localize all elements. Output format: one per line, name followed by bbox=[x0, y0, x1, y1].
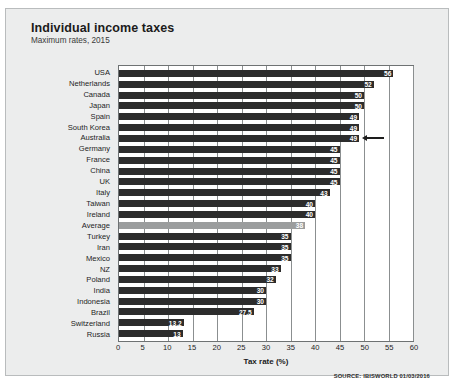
bar[interactable]: 40 bbox=[119, 200, 315, 207]
x-tick-15: 15 bbox=[188, 343, 196, 352]
bar[interactable]: 27.5 bbox=[119, 308, 254, 315]
x-tick-0: 0 bbox=[116, 343, 120, 352]
x-tick-50: 50 bbox=[360, 343, 368, 352]
bar-row[interactable]: 35 bbox=[119, 231, 413, 242]
chart-subtitle: Maximum rates, 2015 bbox=[31, 36, 411, 46]
bar[interactable]: 33 bbox=[119, 265, 281, 272]
bar[interactable]: 49 bbox=[119, 135, 359, 142]
category-label: France bbox=[26, 154, 114, 165]
bar[interactable]: 35 bbox=[119, 243, 291, 250]
category-label: China bbox=[26, 165, 114, 176]
x-tick-20: 20 bbox=[212, 343, 220, 352]
bar-value-label: 49 bbox=[350, 135, 357, 142]
bar-row[interactable]: 40 bbox=[119, 209, 413, 220]
bar[interactable]: 35 bbox=[119, 254, 291, 261]
bar[interactable]: 50 bbox=[119, 102, 364, 109]
x-tick-45: 45 bbox=[336, 343, 344, 352]
category-label: Japan bbox=[26, 100, 114, 111]
bar[interactable]: 45 bbox=[119, 178, 340, 185]
bar-value-label: 49 bbox=[350, 113, 357, 120]
bar-row[interactable]: 35 bbox=[119, 242, 413, 253]
bar-row[interactable]: 30 bbox=[119, 296, 413, 307]
bar-row[interactable]: 49 bbox=[119, 111, 413, 122]
bar-row[interactable]: 32 bbox=[119, 274, 413, 285]
category-label: Canada bbox=[26, 89, 114, 100]
bar-row[interactable]: 49 bbox=[119, 133, 413, 144]
bar-row[interactable]: 30 bbox=[119, 285, 413, 296]
x-tick-30: 30 bbox=[262, 343, 270, 352]
bar[interactable]: 40 bbox=[119, 211, 315, 218]
bar[interactable]: 56 bbox=[119, 70, 393, 77]
chart-header: Individual income taxes Maximum rates, 2… bbox=[31, 21, 411, 46]
category-label: USA bbox=[26, 67, 114, 78]
bar-row[interactable]: 49 bbox=[119, 122, 413, 133]
bar-value-label: 50 bbox=[355, 92, 362, 99]
plot-area: 5652505049494945454545434040383535353332… bbox=[118, 65, 414, 342]
bar-row[interactable]: 50 bbox=[119, 90, 413, 101]
bar-value-label: 30 bbox=[257, 287, 264, 294]
category-label: Iran bbox=[26, 242, 114, 253]
bar-row[interactable]: 56 bbox=[119, 68, 413, 79]
bar-row[interactable]: 45 bbox=[119, 176, 413, 187]
bar-row[interactable]: 45 bbox=[119, 155, 413, 166]
bar-value-label: 45 bbox=[330, 168, 337, 175]
category-label: Poland bbox=[26, 275, 114, 286]
category-label: Brazil bbox=[26, 307, 114, 318]
gridline-60 bbox=[413, 66, 414, 341]
bar-value-label: 27.5 bbox=[239, 308, 252, 315]
bar-row[interactable]: 27.5 bbox=[119, 307, 413, 318]
x-tick-5: 5 bbox=[141, 343, 145, 352]
category-label: Italy bbox=[26, 187, 114, 198]
category-label: Germany bbox=[26, 143, 114, 154]
bar[interactable]: 38 bbox=[119, 222, 305, 229]
category-label: NZ bbox=[26, 264, 114, 275]
bar-value-label: 40 bbox=[306, 200, 313, 207]
bar-row[interactable]: 13.2 bbox=[119, 317, 413, 328]
bar-value-label: 30 bbox=[257, 298, 264, 305]
bar[interactable]: 32 bbox=[119, 276, 276, 283]
bar-row[interactable]: 50 bbox=[119, 101, 413, 112]
category-label: South Korea bbox=[26, 122, 114, 133]
bar[interactable]: 45 bbox=[119, 157, 340, 164]
x-axis-label: Tax rate (%) bbox=[118, 357, 414, 366]
bar-value-label: 56 bbox=[384, 70, 391, 77]
bar-row[interactable]: 43 bbox=[119, 187, 413, 198]
category-label: Average bbox=[26, 220, 114, 231]
bar-value-label: 45 bbox=[330, 157, 337, 164]
bar-row[interactable]: 45 bbox=[119, 166, 413, 177]
bar[interactable]: 50 bbox=[119, 92, 364, 99]
x-tick-55: 55 bbox=[385, 343, 393, 352]
bar-value-label: 52 bbox=[364, 81, 371, 88]
category-label: Spain bbox=[26, 111, 114, 122]
bar-value-label: 43 bbox=[320, 189, 327, 196]
bar[interactable]: 49 bbox=[119, 124, 359, 131]
bar-value-label: 38 bbox=[296, 222, 303, 229]
bar[interactable]: 45 bbox=[119, 146, 340, 153]
bar-value-label: 35 bbox=[281, 254, 288, 261]
bar[interactable]: 49 bbox=[119, 113, 359, 120]
bar-row[interactable]: 52 bbox=[119, 79, 413, 90]
bar-rows: 5652505049494945454545434040383535353332… bbox=[119, 66, 413, 341]
bar-value-label: 33 bbox=[271, 265, 278, 272]
bar[interactable]: 13.2 bbox=[119, 319, 184, 326]
bar-row[interactable]: 40 bbox=[119, 198, 413, 209]
bar-row[interactable]: 35 bbox=[119, 252, 413, 263]
bar-row[interactable]: 33 bbox=[119, 263, 413, 274]
bar[interactable]: 52 bbox=[119, 81, 374, 88]
bar[interactable]: 30 bbox=[119, 298, 266, 305]
category-label: India bbox=[26, 285, 114, 296]
bar-row[interactable]: 13 bbox=[119, 328, 413, 339]
bar[interactable]: 45 bbox=[119, 168, 340, 175]
x-tick-60: 60 bbox=[410, 343, 418, 352]
category-label: Taiwan bbox=[26, 198, 114, 209]
bar-value-label: 13 bbox=[173, 330, 180, 337]
bar[interactable]: 35 bbox=[119, 233, 291, 240]
bar[interactable]: 43 bbox=[119, 189, 330, 196]
bar-row[interactable]: 45 bbox=[119, 144, 413, 155]
bar[interactable]: 30 bbox=[119, 287, 266, 294]
bar[interactable]: 13 bbox=[119, 330, 183, 337]
category-label: UK bbox=[26, 176, 114, 187]
bar-value-label: 40 bbox=[306, 211, 313, 218]
bar-row[interactable]: 38 bbox=[119, 220, 413, 231]
category-label: Mexico bbox=[26, 253, 114, 264]
